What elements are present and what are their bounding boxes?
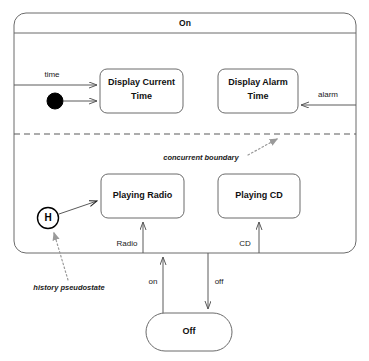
state-display-current-time-label-line2: Time	[131, 91, 152, 101]
annotation-concurrent-boundary-label: concurrent boundary	[163, 153, 239, 162]
transition-on[interactable]: on	[149, 257, 163, 313]
transition-time-label: time	[44, 70, 60, 79]
history-pseudostate-label: H	[44, 212, 51, 223]
annotation-history-pseudostate-label: history pseudostate	[33, 283, 104, 292]
state-playing-cd-label: Playing CD	[235, 190, 283, 200]
state-off-label: Off	[183, 326, 197, 336]
state-diagram-svg: On Display Current Time Display Alarm Ti…	[0, 0, 369, 361]
state-display-alarm-time-label-line1: Display Alarm	[228, 77, 288, 87]
transition-off-label: off	[215, 277, 225, 286]
state-display-current-time-label-line1: Display Current	[108, 77, 175, 87]
initial-pseudostate-node[interactable]	[47, 93, 63, 109]
state-diagram-canvas: On Display Current Time Display Alarm Ti…	[0, 0, 369, 361]
state-playing-radio-label: Playing Radio	[113, 190, 173, 200]
transition-cd-label: CD	[239, 239, 251, 248]
state-off[interactable]: Off	[146, 313, 232, 351]
state-playing-cd[interactable]: Playing CD	[218, 174, 300, 218]
state-display-alarm-time-label-line2: Time	[248, 91, 269, 101]
composite-state-on-box[interactable]	[14, 13, 356, 253]
transition-radio-label: Radio	[117, 239, 138, 248]
composite-state-on[interactable]: On	[14, 13, 356, 253]
transition-off[interactable]: off	[208, 253, 224, 309]
transition-alarm-label: alarm	[318, 90, 338, 99]
state-display-alarm-time[interactable]: Display Alarm Time	[218, 69, 298, 113]
transition-on-label: on	[149, 277, 158, 286]
state-display-current-time[interactable]: Display Current Time	[100, 69, 183, 113]
state-playing-radio[interactable]: Playing Radio	[101, 174, 184, 218]
composite-state-on-label: On	[179, 18, 191, 28]
